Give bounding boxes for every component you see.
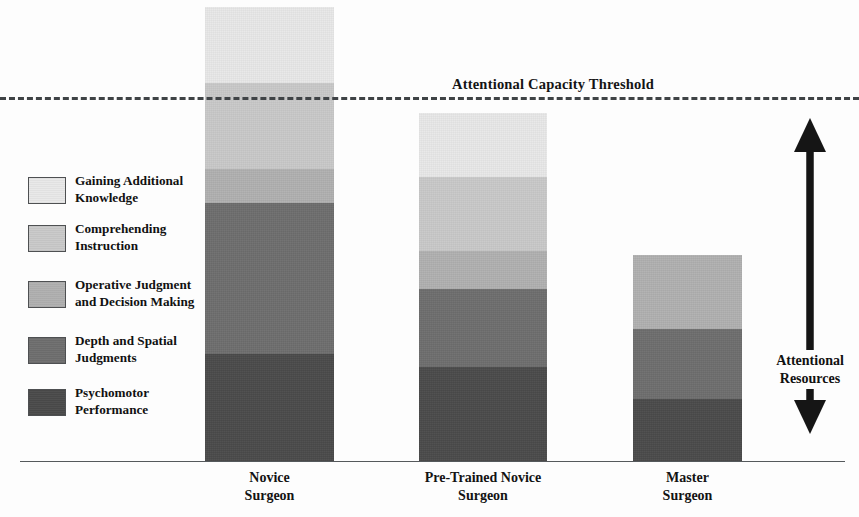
legend-item: PsychomotorPerformance: [28, 383, 194, 421]
legend-label-line1: Comprehending: [75, 221, 166, 238]
bar-master-surgeon: [633, 255, 742, 461]
attentional-capacity-threshold-label: Attentional Capacity Threshold: [452, 76, 654, 93]
attentional-resources-label: Attentional Resources: [762, 350, 858, 389]
bar-segment: [419, 367, 547, 461]
bar-segment: [419, 289, 547, 367]
bar-segment: [633, 399, 742, 461]
x-axis-label-line2: Surgeon: [379, 487, 587, 505]
legend-label: Gaining AdditionalKnowledge: [75, 173, 183, 206]
x-axis-label-pre-trained-novice-surgeon: Pre-Trained NoviceSurgeon: [379, 469, 587, 505]
bar-novice-surgeon: [205, 7, 334, 461]
legend-label-line2: Judgments: [75, 350, 177, 367]
legend-label-line2: Knowledge: [75, 190, 183, 207]
bar-segment: [633, 329, 742, 399]
bar-segment: [419, 251, 547, 289]
legend-label-line1: Operative Judgment: [75, 277, 194, 294]
attentional-capacity-threshold-line: [0, 97, 859, 100]
legend-item: Gaining AdditionalKnowledge: [28, 171, 194, 209]
legend-swatch: [28, 225, 66, 252]
legend-label: Depth and SpatialJudgments: [75, 333, 177, 366]
attentional-resources-label-line2: Resources: [762, 370, 858, 388]
bar-segment: [205, 354, 334, 461]
x-axis-label-line2: Surgeon: [165, 487, 374, 505]
attentional-resources-label-line1: Attentional: [762, 352, 858, 370]
x-axis-label-novice-surgeon: NoviceSurgeon: [165, 469, 374, 505]
attentional-resources-annotation: Attentional Resources: [762, 118, 858, 434]
x-axis-label-line2: Surgeon: [593, 487, 782, 505]
legend-label-line2: Instruction: [75, 238, 166, 255]
x-axis-label-line1: Novice: [165, 469, 374, 487]
x-axis-label-line1: Pre-Trained Novice: [379, 469, 587, 487]
legend-label-line2: Performance: [75, 402, 149, 419]
bar-segment: [419, 177, 547, 251]
legend-label: ComprehendingInstruction: [75, 221, 166, 254]
x-axis-baseline: [20, 461, 845, 462]
legend-item: Depth and SpatialJudgments: [28, 331, 194, 369]
legend-swatch: [28, 389, 66, 416]
legend-label-line1: Psychomotor: [75, 385, 149, 402]
legend-label-line1: Depth and Spatial: [75, 333, 177, 350]
legend-swatch: [28, 281, 66, 308]
bar-segment: [205, 169, 334, 203]
bar-segment: [205, 83, 334, 169]
bar-segment: [205, 7, 334, 83]
legend-item: ComprehendingInstruction: [28, 219, 194, 257]
legend-swatch: [28, 177, 66, 204]
legend-item: Operative Judgmentand Decision Making: [28, 275, 194, 313]
bar-segment: [205, 203, 334, 354]
x-axis-label-master-surgeon: MasterSurgeon: [593, 469, 782, 505]
legend-label: PsychomotorPerformance: [75, 385, 149, 418]
legend-label-line2: and Decision Making: [75, 294, 194, 311]
bar-segment: [633, 255, 742, 329]
bar-pre-trained-novice-surgeon: [419, 113, 547, 461]
chart-figure: NoviceSurgeonPre-Trained NoviceSurgeonMa…: [0, 0, 859, 517]
bar-segment: [419, 113, 547, 177]
chart-legend: Gaining AdditionalKnowledgeComprehending…: [28, 171, 194, 421]
legend-label: Operative Judgmentand Decision Making: [75, 277, 194, 310]
legend-swatch: [28, 337, 66, 364]
x-axis-label-line1: Master: [593, 469, 782, 487]
legend-label-line1: Gaining Additional: [75, 173, 183, 190]
